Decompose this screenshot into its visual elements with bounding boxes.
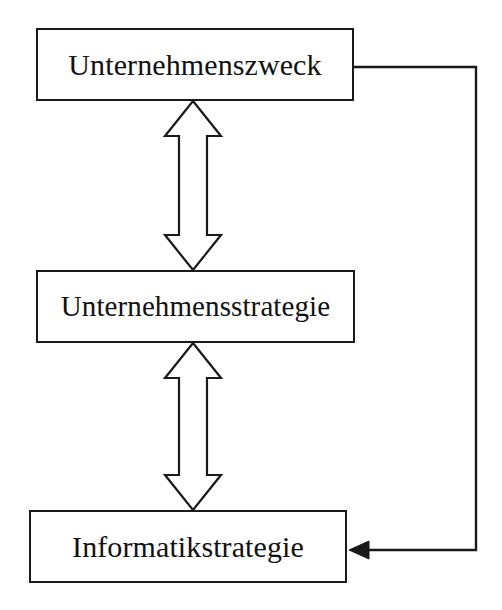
feedback-connector-line [354, 67, 476, 550]
arrow-strategie-informatik [165, 343, 221, 510]
node-informatikstrategie: Informatikstrategie [29, 510, 347, 583]
node-label: Unternehmensstrategie [61, 292, 330, 321]
node-label: Informatikstrategie [72, 532, 304, 562]
node-unternehmensstrategie: Unternehmensstrategie [36, 270, 355, 343]
feedback-zweck-informatik [349, 67, 476, 559]
diagram-canvas: Unternehmenszweck Unternehmensstrategie … [0, 0, 502, 610]
arrow-zweck-strategie [165, 101, 221, 270]
node-label: Unternehmenszweck [68, 50, 321, 80]
arrowhead-left-icon [349, 541, 369, 559]
double-headed-block-arrow-icon [165, 101, 221, 270]
double-headed-block-arrow-icon [165, 343, 221, 510]
node-unternehmenszweck: Unternehmenszweck [36, 28, 354, 101]
